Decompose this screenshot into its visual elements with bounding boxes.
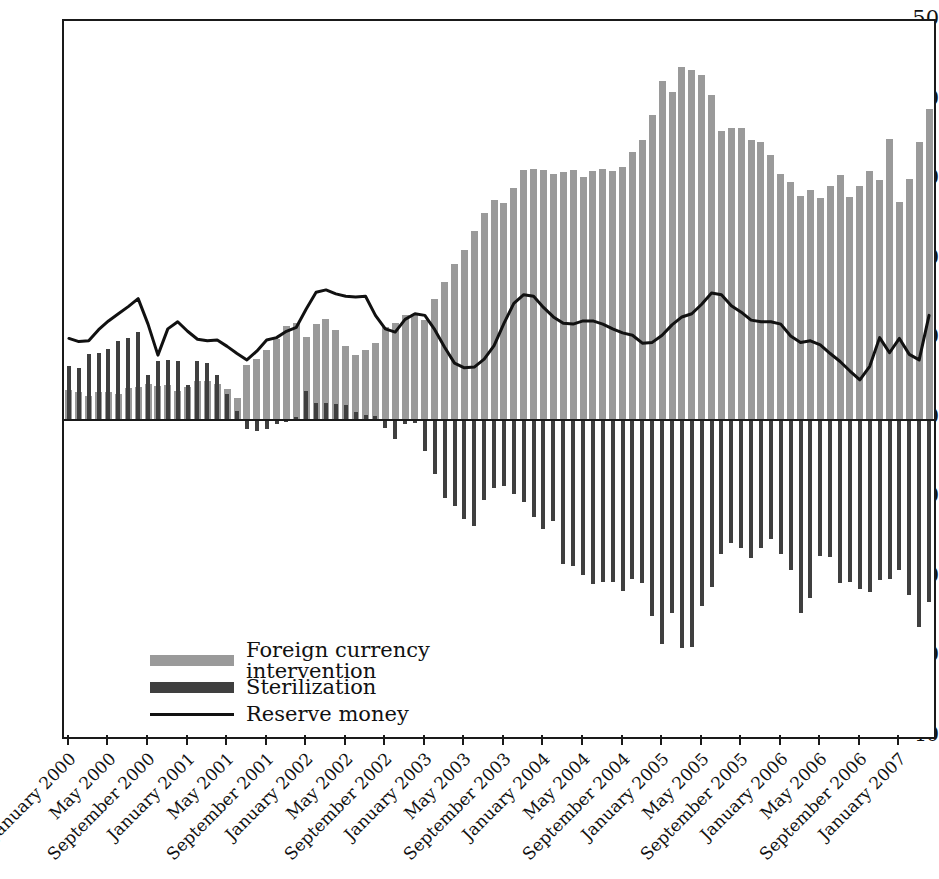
legend: Foreign currency intervention Sterilizat… [150, 647, 480, 728]
x-tick-mark [739, 735, 741, 745]
x-tick-mark [541, 735, 543, 745]
x-tick-mark [858, 735, 860, 745]
x-tick-mark [700, 735, 702, 745]
x-tick-mark [660, 735, 662, 745]
x-tick-mark [67, 735, 69, 745]
x-tick-mark [265, 735, 267, 745]
x-tick-mark [462, 735, 464, 745]
legend-item-reserve-money: Reserve money [150, 701, 480, 728]
x-tick-mark [423, 735, 425, 745]
x-tick-mark [779, 735, 781, 745]
x-tick-mark [304, 735, 306, 745]
x-tick-mark [897, 735, 899, 745]
chart-container: 50403020100−10−20−30−40 Foreign currency… [0, 0, 939, 879]
plot-area: Foreign currency intervention Sterilizat… [62, 19, 936, 739]
legend-label-sterilization: Sterilization [246, 677, 376, 698]
x-tick-mark [581, 735, 583, 745]
legend-line-reserve-money [150, 713, 234, 716]
reserve-money-line [64, 21, 934, 737]
legend-item-foreign-currency-intervention: Foreign currency intervention [150, 647, 480, 674]
legend-label-reserve-money: Reserve money [246, 704, 409, 725]
x-tick-mark [344, 735, 346, 745]
x-tick-mark [186, 735, 188, 745]
legend-swatch-intervention [150, 655, 234, 666]
x-tick-mark [502, 735, 504, 745]
x-tick-mark [106, 735, 108, 745]
x-tick-mark [818, 735, 820, 745]
x-tick-mark [225, 735, 227, 745]
x-tick-mark [146, 735, 148, 745]
legend-swatch-sterilization [150, 682, 234, 693]
x-tick-mark [621, 735, 623, 745]
x-tick-mark [383, 735, 385, 745]
